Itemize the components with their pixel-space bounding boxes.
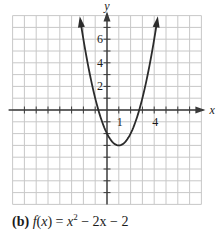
y-tick-label: 4: [97, 56, 103, 70]
y-tick-label: 6: [97, 32, 103, 46]
y-axis-arrow-icon: [104, 12, 111, 22]
x-tick-label: 1: [117, 115, 123, 129]
x-axis-label: x: [208, 103, 215, 117]
y-axis-label: y: [103, 0, 110, 13]
axes: [9, 12, 206, 205]
figure-caption: (b) f(x) = x2 − 2x − 2: [12, 212, 129, 230]
x-tick-label: 4: [152, 115, 158, 129]
x-axis-arrow-icon: [195, 107, 205, 114]
caption-label: (b): [12, 214, 29, 229]
y-tick-label: 2: [97, 79, 103, 93]
function-graph: 14246xy: [0, 0, 218, 210]
caption-function: f(x) = x2 − 2x − 2: [33, 214, 129, 229]
